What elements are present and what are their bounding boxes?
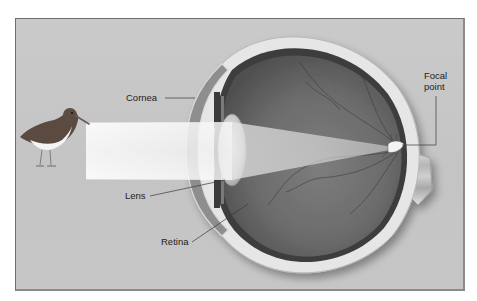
bird-leg bbox=[50, 150, 51, 165]
focal-point-label-line1: Focal bbox=[424, 70, 447, 81]
lens-label: Lens bbox=[125, 190, 146, 201]
focal-point-label-line2: point bbox=[424, 81, 447, 92]
diagram-stage: Cornea Lens Retina Focal point bbox=[0, 0, 477, 301]
retina-label: Retina bbox=[161, 236, 188, 247]
eye-diagram bbox=[0, 0, 477, 301]
focal-point-label: Focal point bbox=[424, 70, 447, 92]
cornea-label: Cornea bbox=[126, 92, 157, 103]
bird-head bbox=[63, 108, 77, 122]
bird-illustration bbox=[20, 108, 89, 166]
bird-leg bbox=[40, 150, 42, 165]
